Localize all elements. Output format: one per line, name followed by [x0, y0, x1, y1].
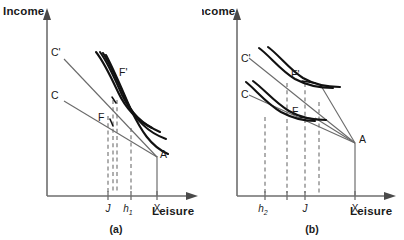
chart-b-x-axis	[237, 192, 396, 200]
chart-b-label-C: C	[241, 88, 249, 100]
chart-b-caption: (b)	[305, 223, 318, 235]
chart-a-x-axis	[47, 192, 198, 200]
chart-a-tick-label-h1: h1	[123, 203, 133, 216]
chart-b-y-axis	[233, 8, 241, 196]
chart-b-tangent-segment-lower	[315, 118, 355, 143]
chart-b-tangent-segment-upper	[320, 84, 355, 143]
chart-a-label-C: C	[51, 89, 59, 101]
chart-panel-a: Income Leisure C'	[0, 0, 202, 240]
chart-a-svg: Income Leisure C'	[0, 0, 202, 240]
chart-b-label-F: F	[292, 105, 298, 117]
chart-b-svg: Income Leisure	[202, 0, 404, 240]
chart-b-y-axis-title: Income	[202, 5, 235, 17]
chart-b-tick-label-X: X	[352, 203, 359, 214]
chart-b-tick-label-J: J	[302, 203, 309, 214]
chart-b-label-F-prime: F'	[291, 68, 299, 80]
chart-a-label-F-prime: F'	[119, 66, 127, 78]
x-axis-arrow-icon	[186, 192, 198, 200]
chart-a-label-A: A	[160, 148, 167, 160]
figure-root: Income Leisure C'	[0, 0, 404, 240]
chart-a-y-axis	[43, 8, 51, 196]
chart-panel-b: Income Leisure	[202, 0, 404, 240]
chart-a-tick-label-X: X	[154, 203, 161, 214]
chart-a-y-axis-title: Income	[3, 5, 44, 17]
chart-a-caption: (a)	[110, 223, 123, 235]
chart-a-label-C-prime: C'	[51, 46, 61, 58]
chart-a-dropline-group	[108, 100, 131, 193]
chart-b-label-C-prime: C'	[241, 52, 251, 64]
x-axis-arrow-icon	[384, 192, 396, 200]
chart-a-label-F: F	[98, 111, 104, 123]
chart-b-label-A: A	[359, 133, 366, 145]
chart-a-indifference-curve-4	[106, 55, 168, 154]
chart-a-budget-line-C	[64, 101, 157, 157]
chart-b-tick-label-h2: h2	[258, 203, 268, 216]
chart-a-tick-label-J: J	[105, 203, 112, 214]
chart-a-budget-line-C-prime	[64, 59, 157, 157]
